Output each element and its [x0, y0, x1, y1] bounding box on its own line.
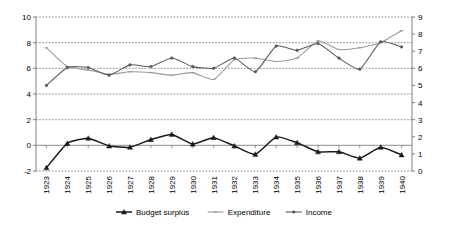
right-axis-tick-label: 5 — [418, 81, 423, 90]
x-axis-label-1923: 1923 — [42, 175, 51, 193]
data-point-income-1933 — [254, 70, 257, 73]
x-axis-label-1936: 1936 — [314, 175, 323, 193]
legend-item-budget-surplus[interactable]: Budget surplus — [116, 208, 189, 217]
x-axis-label-1933: 1933 — [251, 175, 260, 193]
x-axis-label-1935: 1935 — [293, 175, 302, 193]
right-axis-tick-label: 6 — [418, 64, 423, 73]
legend-item-expenditure[interactable]: Expenditure — [208, 208, 271, 217]
x-axis-label-1931: 1931 — [210, 175, 219, 193]
legend-label-budget-surplus: Budget surplus — [136, 208, 189, 217]
right-axis-tick-label: 3 — [418, 116, 423, 125]
data-point-income-1938 — [358, 68, 361, 71]
data-point-income-1923 — [45, 84, 48, 87]
gridlines — [36, 17, 412, 171]
data-point-income-1940 — [400, 46, 403, 49]
chart-legend: Budget surplusExpenditureIncome — [116, 208, 333, 217]
data-point-income-1931 — [212, 67, 215, 70]
left-axis-tick-label: 2 — [27, 116, 32, 125]
data-point-income-1929 — [170, 57, 173, 60]
legend-marker-income — [292, 211, 295, 214]
left-axis-tick-label: 6 — [27, 64, 32, 73]
series-income — [45, 40, 403, 86]
x-axis-label-1939: 1939 — [377, 175, 386, 193]
right-axis-tick-label: 0 — [418, 167, 423, 176]
series-line-income — [46, 41, 401, 85]
right-axis: 0123456789 — [412, 13, 423, 176]
x-axis-label-1925: 1925 — [84, 175, 93, 193]
series-budget-surplus — [44, 132, 404, 170]
data-point-income-1939 — [379, 40, 382, 43]
x-axis-label-1934: 1934 — [272, 175, 281, 193]
left-axis-tick-label: 0 — [27, 141, 32, 150]
left-axis: -20246810 — [22, 13, 36, 176]
data-point-income-1935 — [296, 49, 299, 52]
x-axis-label-1938: 1938 — [356, 175, 365, 193]
series-expenditure — [45, 31, 404, 80]
x-axis: 1923192419251926192719281929193019311932… — [42, 145, 406, 193]
data-point-income-1934 — [275, 45, 278, 48]
right-axis-tick-label: 7 — [418, 47, 423, 56]
line-chart: -202468100123456789192319241925192619271… — [0, 0, 451, 227]
data-point-income-1937 — [338, 57, 341, 60]
data-point-income-1926 — [108, 74, 111, 77]
x-axis-label-1940: 1940 — [398, 175, 407, 193]
right-axis-tick-label: 9 — [418, 13, 423, 22]
series-line-budget-surplus — [46, 134, 401, 167]
x-axis-label-1928: 1928 — [147, 175, 156, 193]
x-axis-label-1930: 1930 — [189, 175, 198, 193]
legend-item-income[interactable]: Income — [286, 208, 333, 217]
data-point-income-1932 — [233, 57, 236, 60]
x-axis-label-1932: 1932 — [230, 175, 239, 193]
x-axis-label-1924: 1924 — [63, 175, 72, 193]
right-axis-tick-label: 4 — [418, 99, 423, 108]
legend-label-income: Income — [306, 208, 333, 217]
left-axis-tick-label: 10 — [22, 13, 31, 22]
chart-container: -202468100123456789192319241925192619271… — [0, 0, 451, 227]
right-axis-tick-label: 8 — [418, 30, 423, 39]
data-point-income-1927 — [129, 64, 132, 67]
data-point-income-1925 — [87, 66, 90, 69]
x-axis-label-1937: 1937 — [335, 175, 344, 193]
left-axis-tick-label: 4 — [27, 90, 32, 99]
data-point-income-1930 — [191, 65, 194, 68]
x-axis-label-1926: 1926 — [105, 175, 114, 193]
x-axis-label-1929: 1929 — [168, 175, 177, 193]
data-point-income-1936 — [317, 42, 320, 45]
right-axis-tick-label: 2 — [418, 133, 423, 142]
data-point-income-1924 — [66, 66, 69, 69]
data-point-income-1928 — [150, 65, 153, 68]
right-axis-tick-label: 1 — [418, 150, 423, 159]
left-axis-tick-label: -2 — [24, 167, 32, 176]
left-axis-tick-label: 8 — [27, 39, 32, 48]
legend-label-expenditure: Expenditure — [228, 208, 271, 217]
x-axis-label-1927: 1927 — [126, 175, 135, 193]
